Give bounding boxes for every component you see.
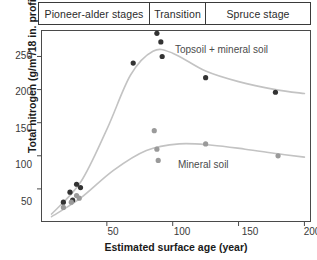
fit-curves xyxy=(52,49,305,216)
chart-canvas xyxy=(0,0,317,260)
data-point xyxy=(69,200,74,205)
nitrogen-accumulation-chart: Pioneer-alder stages Transition Spruce s… xyxy=(0,0,317,260)
data-point xyxy=(61,205,66,210)
data-point xyxy=(77,196,82,201)
data-point xyxy=(275,153,280,158)
data-point xyxy=(61,200,66,205)
data-point xyxy=(67,190,72,195)
data-point xyxy=(154,31,159,36)
data-points xyxy=(61,31,281,210)
data-point xyxy=(203,141,208,146)
fit-curve-0 xyxy=(52,49,305,214)
data-point xyxy=(273,90,278,95)
data-point xyxy=(154,147,159,152)
data-point xyxy=(78,185,83,190)
data-point xyxy=(203,75,208,80)
data-point xyxy=(131,61,136,66)
data-point xyxy=(158,39,163,44)
fit-curve-1 xyxy=(52,144,305,217)
data-point xyxy=(152,128,157,133)
data-point xyxy=(156,158,161,163)
data-point xyxy=(160,54,165,59)
